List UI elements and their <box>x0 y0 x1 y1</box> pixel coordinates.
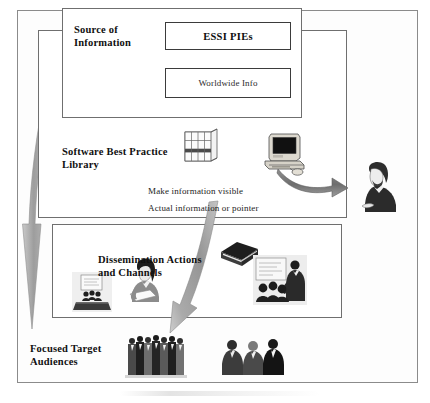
box-worldwide-info: Worldwide Info <box>165 68 291 98</box>
box-essi-pies: ESSI PIEs <box>165 22 291 50</box>
computer-to-reader-arrow <box>276 166 352 204</box>
person-reading-icon <box>356 160 402 212</box>
page-artifact-smudge <box>120 391 320 396</box>
label-software-best-practice-library: Software Best Practice Library <box>62 146 212 171</box>
caption-actual-information-or-pointer: Actual information or pointer <box>148 203 259 213</box>
caption-make-information-visible: Make information visible <box>148 186 243 196</box>
box-essi-pies-label: ESSI PIEs <box>203 31 253 42</box>
label-source-of-information: Source of Information <box>74 24 170 49</box>
label-focused-target-audiences: Focused Target Audiences <box>30 343 150 368</box>
label-dissemination-actions-and-channels: Dissemination Actions and Channels <box>98 254 268 279</box>
diagram-canvas: Source of Information ESSI PIEs Worldwid… <box>0 0 430 403</box>
box-worldwide-info-label: Worldwide Info <box>198 78 257 88</box>
